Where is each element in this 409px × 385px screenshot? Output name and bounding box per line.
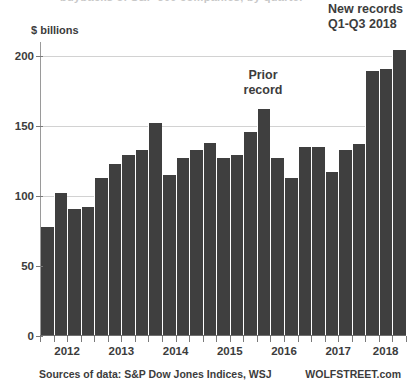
bar [40,227,54,336]
x-axis-label-2016: 2016 [271,345,297,357]
y-axis-unit-label: $ billions [31,24,79,36]
x-tick [216,336,217,342]
x-tick [365,336,366,342]
bar [338,150,352,336]
bar [135,150,149,336]
y-tick-100 [36,196,43,197]
bar [162,175,176,336]
bar [108,164,122,336]
bar [67,209,81,336]
x-tick [298,336,299,342]
bar [284,178,298,336]
plot-area [40,42,406,336]
bar [257,109,271,336]
annotation-new-records-line2: Q1-Q3 2018 [328,17,403,32]
bar [325,172,339,336]
bar [243,132,257,336]
bar [352,144,366,336]
x-tick [243,336,244,342]
x-axis-label-2015: 2015 [217,345,243,357]
x-tick [338,336,339,342]
y-tick-150 [36,126,43,127]
x-tick [162,336,163,342]
x-tick [148,336,149,342]
bar [216,158,230,336]
buyback-bar-chart: buybacks of S&P 500 companies, by quarte… [0,0,409,385]
bar [392,50,406,336]
bar [311,147,325,336]
x-tick [121,336,122,342]
brand-watermark: WOLFSTREET.com [305,368,401,380]
bar-series [40,42,406,336]
x-tick [257,336,258,342]
bar [94,178,108,336]
bar [365,71,379,336]
x-axis-labels: 2012201320142015201620172018 [0,345,409,361]
bar [298,147,312,336]
x-tick [203,336,204,342]
bar [148,123,162,336]
y-axis-labels: 050100150200 [0,42,34,336]
bar [81,207,95,336]
chart-footer: Sources of data: S&P Dow Jones Indices, … [0,368,409,382]
x-tick [94,336,95,342]
x-tick [270,336,271,342]
x-tick [81,336,82,342]
x-axis-ticks [40,336,406,343]
x-tick [230,336,231,342]
bar [121,155,135,336]
y-tick-50 [36,266,43,267]
annotation-new-records-line1: New records [328,2,403,17]
bar [270,158,284,336]
bar [203,143,217,336]
y-axis-label-0: 0 [28,330,34,342]
x-tick [189,336,190,342]
y-axis-label-200: 200 [15,50,34,62]
x-tick [379,336,380,342]
annotation-new-records: New records Q1-Q3 2018 [328,2,403,33]
x-tick [54,336,55,342]
bar [54,193,68,336]
bar [230,155,244,336]
bar [189,150,203,336]
bar [176,158,190,336]
x-tick [40,336,41,342]
bar [379,69,393,336]
clipped-title-text: buybacks of S&P 500 companies, by quarte… [60,0,304,3]
x-tick [325,336,326,342]
x-axis-label-2017: 2017 [325,345,351,357]
x-tick [284,336,285,342]
x-axis-label-2014: 2014 [163,345,189,357]
x-tick [392,336,393,342]
y-axis-label-100: 100 [15,190,34,202]
x-tick [108,336,109,342]
sources-note: Sources of data: S&P Dow Jones Indices, … [39,368,272,380]
x-axis-label-2012: 2012 [54,345,80,357]
x-axis-label-2013: 2013 [109,345,135,357]
y-axis-label-150: 150 [15,120,34,132]
x-axis-label-2018: 2018 [373,345,399,357]
x-tick [67,336,68,342]
x-tick [135,336,136,342]
x-tick [406,336,407,342]
x-tick [352,336,353,342]
y-axis-line [40,42,41,336]
y-tick-200 [36,56,43,57]
x-tick [176,336,177,342]
x-tick [311,336,312,342]
y-axis-label-50: 50 [21,260,34,272]
